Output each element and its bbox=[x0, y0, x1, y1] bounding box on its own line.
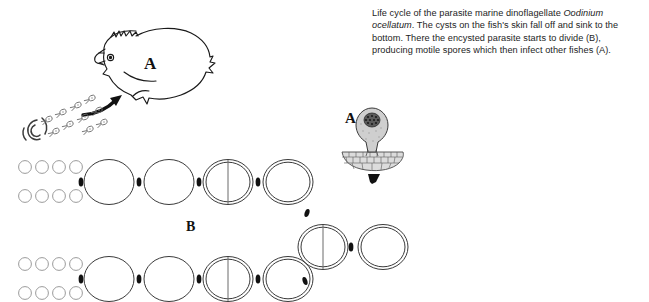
spore-row-lower-top bbox=[19, 258, 83, 271]
cyst-divided-lower-3 bbox=[203, 257, 253, 302]
spore-row-upper-top bbox=[19, 161, 83, 174]
cyst-plain-lower-1 bbox=[84, 257, 134, 302]
chain-arrow-icon bbox=[79, 177, 261, 186]
down-arrow-icon bbox=[368, 174, 380, 184]
cyst-divided-3 bbox=[203, 160, 253, 205]
fish-icon bbox=[95, 28, 215, 104]
cyst-plain-1 bbox=[84, 160, 134, 205]
spore-row-lower-bottom bbox=[19, 287, 83, 300]
life-cycle-diagram bbox=[0, 0, 649, 302]
nucleus-icon bbox=[364, 113, 380, 127]
trophont-icon bbox=[342, 108, 403, 171]
spore-row-upper-bottom bbox=[19, 190, 83, 203]
host-tissue-icon bbox=[342, 152, 403, 171]
cyst-plain-lower-2 bbox=[144, 257, 194, 302]
cyst-encysted-mid-2 bbox=[358, 225, 408, 270]
spore-swarm-icon bbox=[40, 94, 108, 137]
cyst-encysted-4 bbox=[263, 160, 313, 205]
cyst-plain-2 bbox=[144, 160, 194, 205]
